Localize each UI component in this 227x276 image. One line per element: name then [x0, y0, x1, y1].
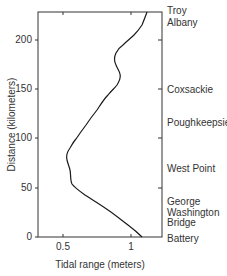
place-label-gwb-line3: Bridge — [167, 218, 196, 228]
y-ticks-right — [158, 40, 162, 188]
tidal-range-curve — [67, 12, 147, 237]
place-label-west-point: West Point — [167, 164, 215, 174]
place-label-coxsackie: Coxsackie — [167, 85, 213, 95]
y-tick-label-50: 50 — [4, 183, 32, 193]
place-label-poughkeepsie: Poughkeepsie — [167, 118, 227, 128]
place-label-battery: Battery — [167, 234, 199, 244]
y-axis-title: Distance (kilometers) — [6, 70, 17, 180]
y-tick-label-200: 200 — [4, 35, 32, 45]
y-tick-label-0: 0 — [4, 232, 32, 242]
x-axis-title: Tidal range (meters) — [38, 259, 162, 270]
place-label-troy: Troy — [167, 6, 187, 16]
x-tick-label-0-5: 0.5 — [48, 242, 78, 252]
x-tick-label-1: 1 — [116, 242, 146, 252]
place-label-albany: Albany — [167, 18, 198, 28]
plot-frame — [38, 12, 162, 237]
place-label-gwb-line1: George — [167, 197, 200, 207]
